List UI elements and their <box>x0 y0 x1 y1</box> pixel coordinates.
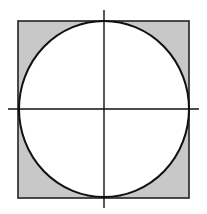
inscribed-circle-diagram <box>0 0 207 214</box>
